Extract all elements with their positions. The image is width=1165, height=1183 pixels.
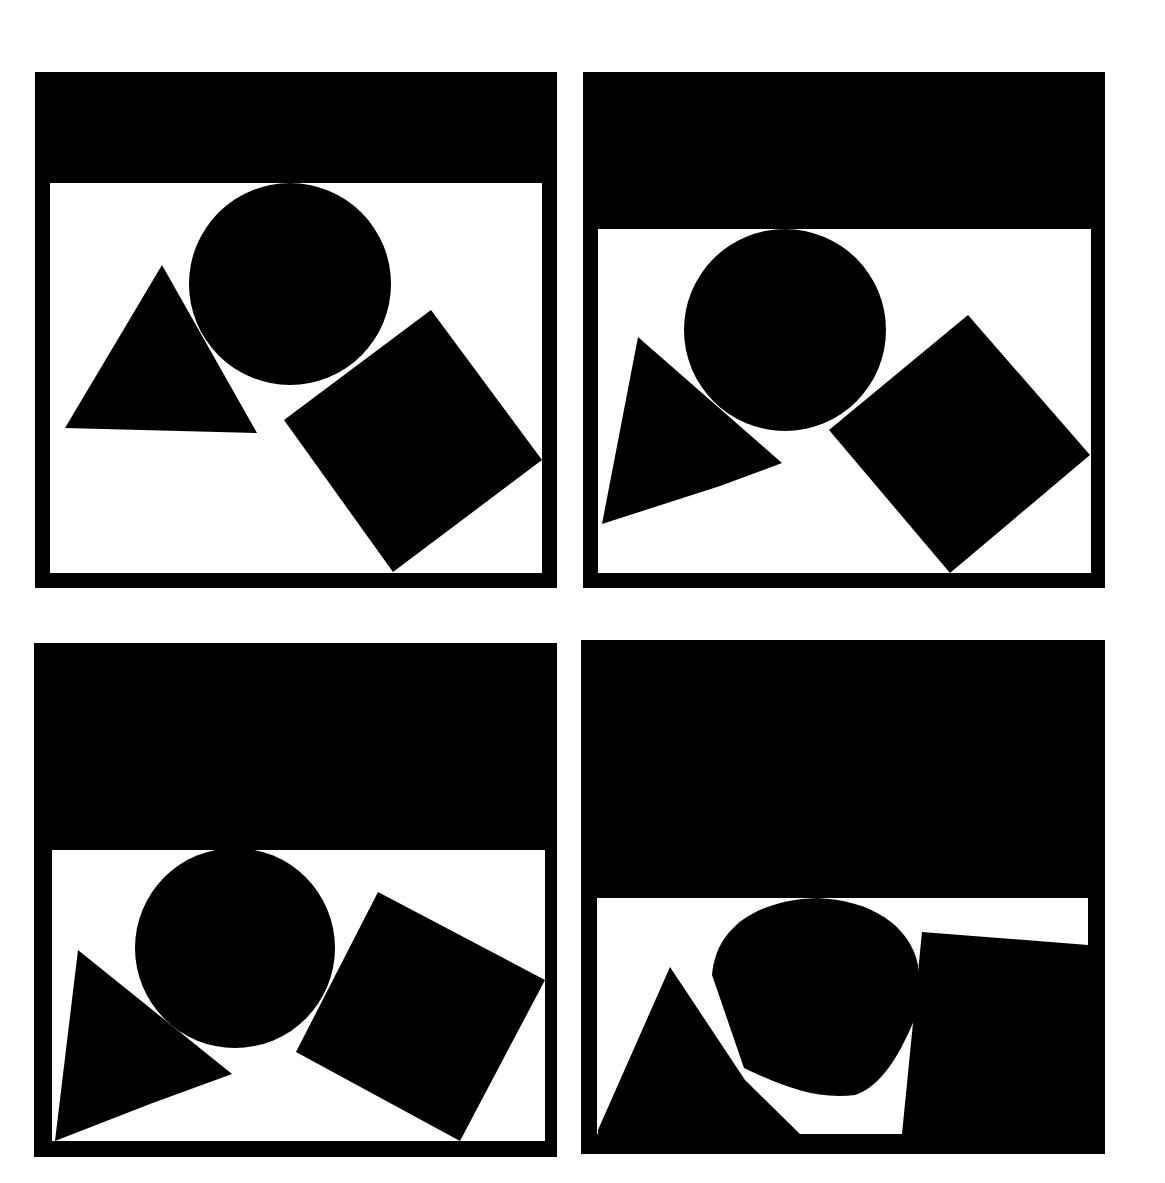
panel-1: [35, 72, 557, 588]
panel-4: [581, 640, 1105, 1154]
panel-2: [583, 72, 1105, 588]
figure-stage: [0, 0, 1165, 1183]
four-panel-shapes-figure: [0, 0, 1165, 1183]
circle-shape: [684, 229, 886, 431]
circle-shape: [135, 848, 335, 1048]
circle-shape: [189, 183, 391, 385]
panel-3: [34, 643, 557, 1157]
square-shape: [902, 932, 1088, 1134]
